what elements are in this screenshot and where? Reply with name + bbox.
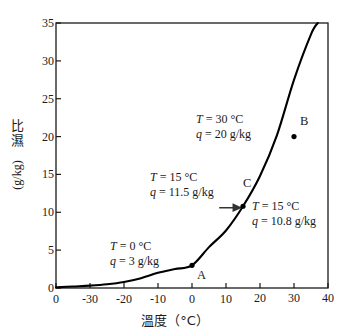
x-tick-label: 30 bbox=[277, 291, 311, 306]
x-tick-label: -10 bbox=[141, 292, 175, 307]
annot-c-right-eq-t: = 15 °C bbox=[262, 199, 300, 213]
x-tick-label: 20 bbox=[243, 291, 277, 306]
annotation-point-c-right: T = 15 °C q = 10.8 g/kg bbox=[252, 199, 316, 229]
annot-b-var-t: T bbox=[196, 112, 203, 126]
annotation-point-c-left: T = 15 °C q = 11.5 g/kg bbox=[150, 170, 214, 200]
x-tick-label: -20 bbox=[107, 292, 141, 307]
annot-c-right-var-q: q bbox=[252, 214, 258, 228]
y-axis-ticks bbox=[56, 23, 61, 288]
point-label-b: B bbox=[300, 114, 308, 129]
annot-a-eq-q: = 3 g/kg bbox=[119, 254, 159, 268]
annot-c-right-var-t: T bbox=[252, 199, 259, 213]
saturation-specific-humidity-chart: 0 5 10 15 20 25 30 35 0 -30 -20 -10 0 10… bbox=[0, 0, 350, 336]
x-tick-label: 0 bbox=[175, 292, 209, 307]
annot-a-var-t: T bbox=[110, 239, 117, 253]
annotation-point-a: T = 0 °C q = 3 g/kg bbox=[110, 239, 159, 269]
annot-b-eq-q: = 20 g/kg bbox=[205, 127, 251, 141]
annot-c-left-eq-t: = 15 °C bbox=[160, 170, 198, 184]
x-tick-label: 40 bbox=[311, 291, 345, 306]
annotation-arrow bbox=[219, 205, 240, 211]
y-axis-unit: (g/kg) bbox=[0, 164, 40, 186]
y-tick-label: 35 bbox=[28, 16, 54, 31]
data-point-c bbox=[240, 204, 245, 209]
annot-a-eq-t: = 0 °C bbox=[120, 239, 152, 253]
annot-c-left-var-t: T bbox=[150, 170, 157, 184]
x-tick-label: 10 bbox=[209, 292, 243, 307]
annot-c-left-eq-q: = 11.5 g/kg bbox=[159, 185, 214, 199]
annot-a-var-q: q bbox=[110, 254, 116, 268]
point-label-a: A bbox=[197, 268, 206, 283]
y-tick-label: 5 bbox=[28, 243, 54, 258]
x-tick-label: -30 bbox=[73, 292, 107, 307]
data-point-b bbox=[291, 134, 296, 139]
saturation-curve bbox=[56, 23, 318, 287]
annot-b-eq-t: = 30 °C bbox=[206, 112, 244, 126]
annot-b-var-q: q bbox=[196, 127, 202, 141]
y-tick-label: 25 bbox=[28, 92, 54, 107]
annot-c-right-eq-q: = 10.8 g/kg bbox=[261, 214, 316, 228]
y-tick-label: 10 bbox=[28, 205, 54, 220]
x-axis-title: 溫度（°C） bbox=[0, 310, 350, 329]
annotation-point-b: T = 30 °C q = 20 g/kg bbox=[196, 112, 251, 142]
data-point-a bbox=[189, 263, 194, 268]
y-tick-label: 30 bbox=[28, 54, 54, 69]
point-label-c: C bbox=[243, 176, 251, 191]
annot-c-left-var-q: q bbox=[150, 185, 156, 199]
y-axis-title: 比濕 bbox=[7, 118, 27, 148]
plot-frame bbox=[56, 23, 328, 288]
y-tick-label: 20 bbox=[28, 130, 54, 145]
x-tick-label: 0 bbox=[39, 292, 73, 307]
